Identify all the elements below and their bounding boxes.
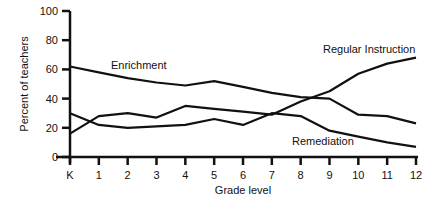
x-tick-label: 7 <box>269 169 275 181</box>
y-tick-label: 80 <box>46 34 58 46</box>
x-tick-label: 9 <box>326 169 332 181</box>
y-axis-title: Percent of teachers <box>18 36 30 132</box>
x-axis: K123456789101112 <box>56 157 422 181</box>
label-regular-instruction: Regular Instruction <box>323 43 415 55</box>
x-tick-label: 6 <box>240 169 246 181</box>
y-tick-label: 60 <box>46 63 58 75</box>
label-remediation: Remediation <box>292 135 354 147</box>
x-tick-label: 5 <box>211 169 217 181</box>
series-lines <box>70 58 416 147</box>
line-chart: 020406080100 K123456789101112 Enrichment… <box>0 0 442 214</box>
y-tick-label: 100 <box>40 5 58 17</box>
x-tick-label: 4 <box>182 169 188 181</box>
x-tick-label: 8 <box>298 169 304 181</box>
x-tick-label: 10 <box>352 169 364 181</box>
y-axis: 020406080100 <box>40 5 70 163</box>
x-tick-label: 12 <box>410 169 422 181</box>
y-tick-label: 40 <box>46 93 58 105</box>
x-tick-label: 3 <box>153 169 159 181</box>
x-tick-label: 1 <box>96 169 102 181</box>
x-tick-label: 11 <box>381 169 392 181</box>
x-tick-label: K <box>66 169 74 181</box>
x-tick-label: 2 <box>125 169 131 181</box>
x-axis-title: Grade level <box>215 184 271 196</box>
label-enrichment: Enrichment <box>111 59 167 71</box>
series-line <box>70 113 416 147</box>
y-tick-label: 20 <box>46 122 58 134</box>
